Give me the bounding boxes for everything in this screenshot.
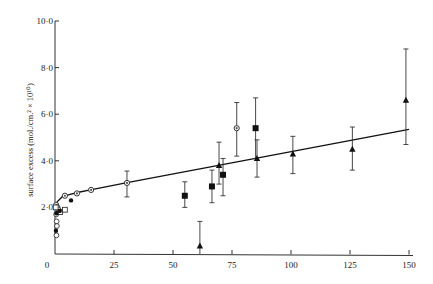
fit-curve (55, 129, 409, 207)
open-circle-marker (54, 219, 59, 224)
half-filled-circle-core (64, 195, 66, 197)
y-tick-label: 8·0 (41, 63, 53, 73)
axes: 02550751001251502·04·06·08·010·0 (37, 16, 417, 270)
filled-square-marker (182, 193, 188, 199)
filled-square-marker (209, 183, 215, 189)
surface-excess-chart: 02550751001251502·04·06·08·010·0 surface… (0, 0, 433, 284)
x-tick-label: 100 (284, 260, 298, 270)
x-tick-label: 25 (110, 260, 120, 270)
x-tick-label: 75 (228, 260, 238, 270)
x-tick-label: 50 (169, 260, 179, 270)
y-axis-label: surface excess (mol./cm.² × 10¹⁰) (25, 83, 35, 197)
y-tick-label: 4·0 (41, 156, 53, 166)
open-square-marker (63, 207, 68, 212)
open-circle-marker (54, 224, 59, 229)
half-filled-circle-core (76, 192, 78, 194)
half-filled-circle-core (126, 182, 128, 184)
filled-square-marker (253, 125, 259, 131)
y-tick-label: 10·0 (37, 16, 54, 26)
x-tick-label: 125 (343, 260, 357, 270)
x-tick-label: 0 (45, 260, 50, 270)
y-tick-label: 2·0 (41, 202, 53, 212)
data-points (53, 49, 409, 254)
y-tick-label: 6·0 (41, 109, 53, 119)
fit-line (55, 129, 409, 207)
filled-circle-marker (58, 209, 62, 213)
filled-triangle-marker (197, 242, 203, 248)
filled-square-marker (220, 172, 226, 178)
open-square-marker (53, 205, 58, 210)
filled-circle-marker (69, 198, 73, 202)
open-circle-marker (54, 233, 59, 238)
x-axis-line (55, 254, 413, 256)
half-filled-circle-core (236, 127, 238, 129)
x-tick-label: 150 (402, 260, 416, 270)
filled-triangle-marker (403, 97, 409, 103)
filled-circle-marker (54, 229, 58, 233)
half-filled-circle-core (90, 189, 92, 191)
filled-triangle-marker (349, 146, 355, 152)
